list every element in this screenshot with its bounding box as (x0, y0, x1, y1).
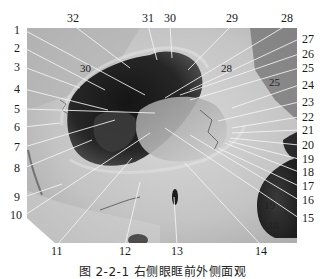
label-8: 8 (14, 161, 20, 175)
label-19: 19 (302, 152, 314, 166)
label-9: 9 (14, 190, 20, 204)
label-32: 32 (67, 11, 79, 25)
inline-label-18: 18 (268, 219, 280, 231)
label-30: 30 (164, 11, 176, 25)
label-26: 26 (302, 47, 314, 61)
label-3: 3 (14, 60, 20, 74)
inline-label-30: 30 (80, 62, 92, 74)
label-11: 11 (51, 244, 63, 258)
photo-region (27, 28, 297, 246)
inline-label-28: 28 (221, 62, 233, 74)
label-12: 12 (119, 244, 131, 258)
figure-caption: 图 2-2-1 右侧眼眶前外侧面观 (0, 262, 325, 279)
label-15: 15 (302, 211, 314, 225)
label-28: 28 (281, 11, 293, 25)
label-23: 23 (302, 95, 314, 109)
label-16: 16 (302, 193, 314, 207)
label-24: 24 (302, 78, 314, 92)
label-27: 27 (302, 32, 314, 46)
label-25: 25 (302, 61, 314, 75)
label-4: 4 (14, 82, 20, 96)
infraorbital-foramen (172, 189, 178, 205)
label-22: 22 (302, 110, 314, 124)
label-20: 20 (302, 138, 314, 152)
label-31: 31 (142, 11, 154, 25)
label-7: 7 (14, 140, 20, 154)
label-5: 5 (14, 102, 20, 116)
label-14: 14 (255, 244, 267, 258)
label-6: 6 (14, 120, 20, 134)
label-1: 1 (14, 23, 20, 37)
label-10: 10 (10, 208, 22, 222)
label-29: 29 (226, 11, 238, 25)
label-13: 13 (171, 244, 183, 258)
label-21: 21 (302, 123, 314, 137)
label-17: 17 (302, 179, 314, 193)
label-2: 2 (14, 41, 20, 55)
inline-label-19: 19 (264, 199, 276, 211)
label-18: 18 (302, 165, 314, 179)
inline-label-25: 25 (269, 76, 281, 88)
